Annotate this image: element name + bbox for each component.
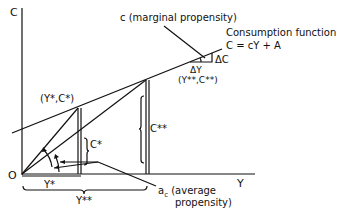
- consumption-function-title: Consumption function: [226, 28, 336, 38]
- y-axis-label: C: [10, 7, 18, 18]
- y-double-star-brace: [23, 186, 147, 194]
- ac-leader-2: [54, 162, 98, 168]
- c-star-brace: [84, 138, 89, 165]
- y-star-label: Y*: [44, 180, 55, 190]
- arrowhead-leader-1: [60, 160, 65, 164]
- c-double-star-brace: [139, 96, 144, 163]
- x-axis-label: Y: [237, 178, 244, 189]
- average-propensity-line2: propensity): [175, 198, 232, 208]
- y-double-star-label: Y**: [76, 196, 92, 206]
- point-double-star-label: (Y**,C**): [178, 76, 218, 85]
- origin-label: O: [8, 170, 17, 181]
- c-star-label: C*: [90, 140, 102, 150]
- angle-arc-inner: [56, 157, 59, 172]
- marginal-leader: [164, 26, 205, 58]
- consumption-function-diagram: C Y O (Y*,C*) (Y**,C**) C* C** Y* Y** ΔY…: [0, 0, 338, 217]
- point-star-label: (Y*,C*): [40, 94, 74, 104]
- marginal-propensity-label: c (marginal propensity): [120, 13, 237, 23]
- consumption-function-equation: C = cY + A: [226, 41, 281, 51]
- delta-y-label: ΔY: [190, 66, 202, 75]
- delta-c-label: ΔC: [215, 55, 229, 65]
- average-propensity-rest: (average: [168, 185, 216, 196]
- c-double-star-label: C**: [150, 124, 167, 134]
